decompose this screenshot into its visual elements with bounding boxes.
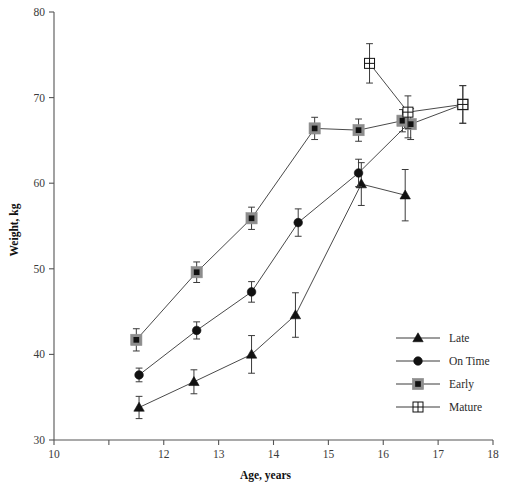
marker-square xyxy=(133,337,139,343)
legend-label: On Time xyxy=(449,355,490,367)
x-tick-label: 17 xyxy=(432,448,444,460)
marker-square xyxy=(408,121,414,127)
weight-vs-age-line-chart: 304050607080 1012131415161718 LateOn Tim… xyxy=(0,0,507,484)
series-line xyxy=(139,124,408,375)
legend-entry-early[interactable]: Early xyxy=(396,378,474,391)
marker-square xyxy=(400,118,406,124)
x-tick-label: 15 xyxy=(323,448,335,460)
x-axis-title: Age, years xyxy=(240,469,292,482)
legend-entry-mature[interactable]: Mature xyxy=(396,401,482,413)
axes-group xyxy=(54,12,493,440)
marker-square xyxy=(415,381,421,387)
marker-circle xyxy=(294,218,303,227)
chart-container: 304050607080 1012131415161718 LateOn Tim… xyxy=(0,0,507,484)
y-tick-label: 80 xyxy=(34,6,46,18)
marker-square xyxy=(356,127,362,133)
legend-entry-late[interactable]: Late xyxy=(396,332,469,344)
series-mature xyxy=(365,44,468,129)
x-tick-label: 14 xyxy=(268,448,280,460)
y-tick-label: 50 xyxy=(34,263,46,275)
marker-square xyxy=(194,269,200,275)
series-on-time xyxy=(135,110,412,381)
x-tick-label: 10 xyxy=(48,448,60,460)
marker-triangle xyxy=(290,310,300,319)
marker-square xyxy=(312,126,318,132)
y-axis-title: Weight, kg xyxy=(8,203,21,256)
y-tick-label: 40 xyxy=(34,348,46,360)
x-tick-label: 13 xyxy=(213,448,225,460)
legend-label: Early xyxy=(449,378,474,391)
legend-label: Mature xyxy=(449,401,482,413)
x-tick-label: 18 xyxy=(487,448,499,460)
series-line xyxy=(139,184,405,407)
legend-label: Late xyxy=(449,332,469,344)
marker-circle xyxy=(247,288,256,297)
y-tick-label: 60 xyxy=(34,177,46,189)
marker-triangle xyxy=(189,377,199,386)
marker-circle xyxy=(414,357,423,366)
marker-circle xyxy=(192,326,201,335)
marker-circle xyxy=(354,169,363,178)
y-tick-label: 30 xyxy=(34,434,46,446)
marker-square xyxy=(249,215,255,221)
series-line xyxy=(370,63,463,112)
y-tick-label: 70 xyxy=(34,92,46,104)
x-axis-ticks: 1012131415161718 xyxy=(48,440,499,460)
series-late xyxy=(134,163,411,419)
x-tick-label: 12 xyxy=(158,448,170,460)
chart-legend: LateOn TimeEarlyMature xyxy=(396,332,490,413)
marker-triangle xyxy=(134,402,144,411)
y-axis-ticks: 304050607080 xyxy=(34,6,55,446)
x-tick-label: 16 xyxy=(378,448,390,460)
marker-circle xyxy=(135,371,144,380)
marker-triangle xyxy=(413,333,423,342)
legend-entry-on-time[interactable]: On Time xyxy=(396,355,490,367)
